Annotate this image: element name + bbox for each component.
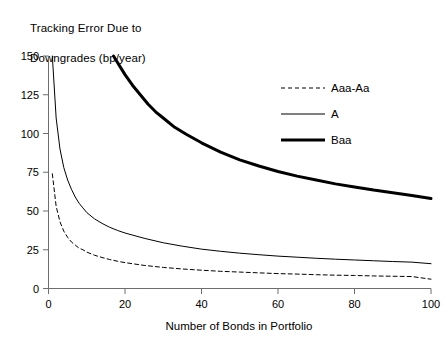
y-axis-ticks: 0255075100125150 bbox=[21, 50, 49, 295]
x-tick-label: 60 bbox=[272, 298, 284, 310]
legend-label-aaa-aa: Aaa-Aa bbox=[331, 82, 370, 94]
chart-legend: Aaa-AaABaa bbox=[281, 82, 370, 146]
x-axis-title: Number of Bonds in Portfolio bbox=[165, 320, 312, 332]
chart-plot-svg: 0255075100125150 020406080100 Number of … bbox=[0, 0, 447, 344]
y-tick-label: 0 bbox=[33, 283, 39, 295]
y-tick-label: 50 bbox=[27, 205, 39, 217]
x-axis-ticks: 020406080100 bbox=[45, 289, 440, 311]
x-tick-label: 0 bbox=[45, 298, 51, 310]
x-tick-label: 40 bbox=[195, 298, 207, 310]
y-tick-label: 75 bbox=[27, 166, 39, 178]
y-tick-label: 125 bbox=[21, 89, 39, 101]
legend-label-a: A bbox=[331, 108, 339, 120]
y-tick-label: 25 bbox=[27, 244, 39, 256]
x-tick-label: 80 bbox=[348, 298, 360, 310]
legend-label-baa: Baa bbox=[331, 134, 352, 146]
chart-container: Tracking Error Due to Downgrades (bp/yea… bbox=[0, 0, 447, 344]
x-tick-label: 100 bbox=[422, 298, 440, 310]
chart-series-group bbox=[52, 56, 431, 279]
series-line-baa bbox=[114, 56, 431, 199]
y-tick-label: 150 bbox=[21, 50, 39, 62]
y-tick-label: 100 bbox=[21, 128, 39, 140]
x-tick-label: 20 bbox=[119, 298, 131, 310]
